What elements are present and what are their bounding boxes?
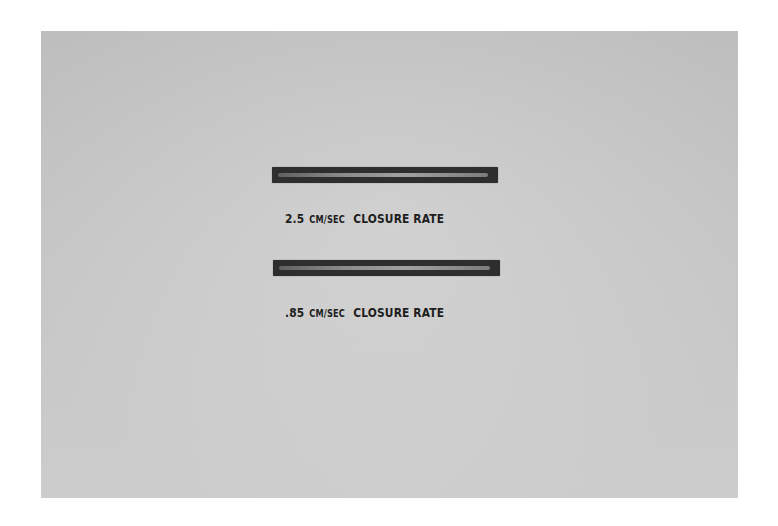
- specimen-bar-slow-closure: [273, 260, 500, 276]
- bar-highlight-streak: [278, 173, 488, 177]
- closure-rate-label: CLOSURE RATE: [353, 211, 444, 226]
- bar-highlight-streak: [279, 266, 490, 270]
- caption-slow-closure: .85CM/SECCLOSURE RATE: [285, 305, 444, 320]
- closure-rate-unit: CM/SEC: [309, 214, 345, 225]
- closure-rate-value: .85: [285, 305, 304, 320]
- specimen-bar-fast-closure: [272, 167, 498, 183]
- closure-rate-label: CLOSURE RATE: [353, 305, 444, 320]
- caption-fast-closure: 2.5CM/SECCLOSURE RATE: [285, 211, 444, 226]
- closure-rate-value: 2.5: [285, 211, 304, 226]
- closure-rate-unit: CM/SEC: [309, 308, 345, 319]
